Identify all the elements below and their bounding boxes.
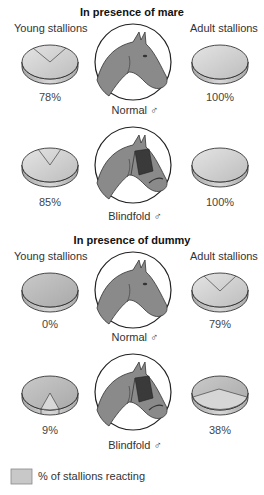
condition-mare-normal: Normal ♂ [85, 104, 185, 116]
horse-normal-dummy [95, 252, 171, 328]
pie-dummy-normal-adult [192, 273, 248, 312]
header-young-stallions: Young stallions [14, 22, 88, 34]
pct-dummy-blindfold-young: 9% [20, 424, 80, 436]
header-young-stallions-2: Young stallions [14, 250, 88, 262]
horse-normal-mare [95, 24, 171, 100]
condition-dummy-normal: Normal ♂ [85, 331, 185, 343]
pie-mare-normal-adult [192, 45, 248, 84]
pie-dummy-normal-young [22, 273, 78, 312]
section-title-mare: In presence of mare [0, 6, 264, 18]
pie-dummy-blindfold-young [22, 376, 78, 415]
pct-dummy-blindfold-adult: 38% [190, 424, 250, 436]
pct-dummy-normal-young: 0% [20, 318, 80, 330]
legend-swatch [11, 469, 32, 484]
pct-mare-normal-adult: 100% [190, 91, 250, 103]
horse-blindfold-dummy [95, 354, 171, 430]
pie-dummy-blindfold-adult [192, 376, 248, 415]
pie-mare-blindfold-young [22, 148, 78, 187]
pct-dummy-normal-adult: 79% [190, 318, 250, 330]
pie-mare-blindfold-adult [192, 148, 248, 187]
pct-mare-normal-young: 78% [20, 91, 80, 103]
section-title-dummy: In presence of dummy [0, 234, 264, 246]
condition-mare-blindfold: Blindfold ♂ [85, 210, 185, 222]
pct-mare-blindfold-young: 85% [20, 196, 80, 208]
pct-mare-blindfold-adult: 100% [190, 196, 250, 208]
horse-blindfold-mare [95, 127, 171, 203]
pie-mare-normal-young [22, 45, 78, 84]
header-adult-stallions-2: Adult stallions [190, 250, 258, 262]
header-adult-stallions: Adult stallions [190, 22, 258, 34]
legend-label: % of stallions reacting [38, 470, 145, 482]
diagram-graphics [0, 0, 264, 495]
condition-dummy-blindfold: Blindfold ♂ [85, 439, 185, 451]
